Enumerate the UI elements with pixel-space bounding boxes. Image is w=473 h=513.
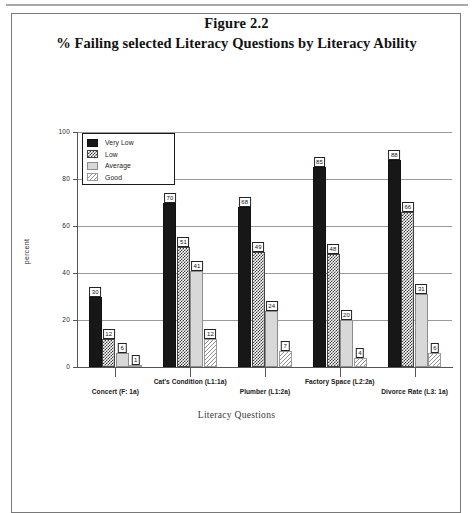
y-tick-label: 40 (44, 269, 70, 276)
bar[interactable]: 12 (204, 339, 217, 367)
bar-value-label: 7 (281, 341, 289, 351)
x-tick-label: Concert (F: 1a) (92, 388, 139, 395)
bar[interactable]: 12 (102, 339, 115, 367)
legend-item[interactable]: Very Low (87, 137, 174, 149)
x-tick-label: Factory Space (L2:2a) (305, 378, 375, 385)
x-tick-label: Divorce Rate (L3: 1a) (381, 388, 448, 395)
bar[interactable]: 24 (265, 311, 278, 367)
bar-value-label: 88 (388, 150, 400, 160)
bar[interactable]: 51 (177, 247, 190, 367)
x-tick-mark (190, 368, 191, 377)
bar[interactable]: 31 (415, 294, 428, 367)
bar-value-label: 12 (205, 329, 217, 339)
y-tick-label: 20 (44, 316, 70, 323)
bar[interactable]: 7 (279, 351, 292, 367)
x-tick-label: Cat's Condition (L1:1a) (154, 378, 227, 385)
bar[interactable]: 85 (313, 167, 326, 367)
bar-value-label: 41 (191, 261, 203, 271)
legend-item[interactable]: Average (87, 160, 174, 172)
bar[interactable]: 49 (252, 252, 265, 367)
bar[interactable]: 66 (401, 212, 414, 367)
bar-value-label: 4 (356, 348, 364, 358)
bar[interactable]: 20 (340, 320, 353, 367)
legend-label: Low (105, 151, 118, 158)
bar-value-label: 70 (164, 193, 176, 203)
bar-value-label: 66 (402, 202, 414, 212)
bar-value-label: 48 (327, 244, 339, 254)
x-tick-mark (265, 368, 266, 377)
bar-group: 6849247 (238, 132, 292, 367)
y-tick-label: 100 (44, 128, 70, 135)
bar-value-label: 49 (252, 242, 264, 252)
x-tick-mark (340, 368, 341, 377)
legend-label: Very Low (105, 139, 134, 146)
legend-item[interactable]: Good (87, 172, 174, 184)
bar[interactable]: 6 (116, 353, 129, 367)
bar-value-label: 51 (178, 237, 190, 247)
bar-value-label: 68 (239, 197, 251, 207)
legend-swatch (87, 150, 98, 158)
legend-swatch (87, 139, 98, 147)
bar-value-label: 1 (131, 355, 139, 365)
legend-label: Good (105, 174, 122, 181)
x-tick-mark (415, 368, 416, 377)
bar-group: 8866316 (388, 132, 442, 367)
bar-value-label: 6 (118, 343, 126, 353)
bar-group: 8548204 (313, 132, 367, 367)
bar[interactable]: 6 (428, 353, 441, 367)
legend-label: Average (105, 162, 131, 169)
x-tick-label: Plumber (L1:2a) (240, 388, 291, 395)
x-axis-title: Literacy Questions (0, 410, 473, 420)
bar[interactable]: 1 (129, 365, 142, 367)
bar-value-label: 20 (341, 310, 353, 320)
bar[interactable]: 70 (163, 203, 176, 368)
bar[interactable]: 4 (354, 358, 367, 367)
bar-value-label: 31 (415, 284, 427, 294)
y-tick-label: 80 (44, 175, 70, 182)
legend-item[interactable]: Low (87, 149, 174, 161)
legend-swatch (87, 162, 98, 170)
bar[interactable]: 48 (327, 254, 340, 367)
bar[interactable]: 30 (89, 297, 102, 368)
bar-value-label: 30 (89, 287, 101, 297)
legend-swatch (87, 173, 98, 181)
bar-value-label: 24 (266, 301, 278, 311)
bar-value-label: 6 (431, 343, 439, 353)
y-tick-label: 60 (44, 222, 70, 229)
bar-value-label: 85 (314, 157, 326, 167)
chart-legend: Very LowLowAverageGood (82, 133, 175, 185)
y-axis-title: percent (23, 222, 30, 282)
x-tick-mark (115, 368, 116, 377)
y-tick-label: 0 (44, 363, 70, 370)
bar[interactable]: 68 (238, 207, 251, 367)
bar[interactable]: 88 (388, 160, 401, 367)
y-tick-mark (73, 367, 78, 368)
bar-value-label: 12 (103, 329, 115, 339)
bar[interactable]: 41 (190, 271, 203, 367)
